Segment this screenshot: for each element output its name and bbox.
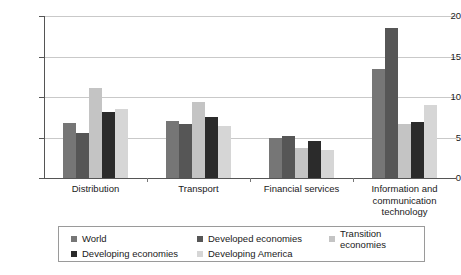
x-axis-category-label: Financial services xyxy=(250,183,353,195)
y-tick-mark xyxy=(39,138,44,139)
legend-row: WorldDeveloped economiesTransition econo… xyxy=(65,231,424,246)
legend-item[interactable]: World xyxy=(71,233,107,244)
bar xyxy=(192,102,205,178)
bar xyxy=(308,141,321,178)
bar-group xyxy=(63,16,128,178)
y-tick-mark xyxy=(39,16,44,17)
bar-group xyxy=(372,16,437,178)
y-tick-label: 0 xyxy=(435,173,461,183)
category-label-line: Transport xyxy=(147,183,250,195)
y-tick-mark xyxy=(39,178,44,179)
legend-label: Developing America xyxy=(208,248,293,259)
bar xyxy=(205,117,218,178)
x-axis-tick-mark xyxy=(250,178,251,182)
bar xyxy=(76,133,89,178)
y-tick-mark xyxy=(39,57,44,58)
bar xyxy=(269,138,282,179)
y-tick-label: 15 xyxy=(435,52,461,62)
y-tick-label: 10 xyxy=(435,92,461,102)
category-label-line: technology xyxy=(353,206,456,218)
bar xyxy=(411,122,424,178)
legend-row: Developing economiesDeveloping America xyxy=(65,246,424,261)
bar-group xyxy=(166,16,231,178)
y-tick-label: 5 xyxy=(435,133,461,143)
bar xyxy=(385,28,398,178)
x-axis-category-label: Information andcommunicationtechnology xyxy=(353,183,456,218)
legend-swatch-icon xyxy=(71,236,77,242)
bar xyxy=(424,105,437,178)
bar xyxy=(179,124,192,178)
bar-group xyxy=(269,16,334,178)
category-label-line: communication xyxy=(353,195,456,207)
legend-item[interactable]: Developing America xyxy=(197,248,293,259)
x-axis-tick-mark xyxy=(353,178,354,182)
y-axis-line xyxy=(44,16,45,179)
legend-label: Developed economies xyxy=(208,233,302,244)
x-axis-tick-mark xyxy=(147,178,148,182)
legend-label: Developing economies xyxy=(82,248,178,259)
legend-item[interactable]: Developed economies xyxy=(197,233,302,244)
legend-swatch-icon xyxy=(71,251,77,257)
legend-swatch-icon xyxy=(197,236,203,242)
chart-legend: WorldDeveloped economiesTransition econo… xyxy=(58,226,425,262)
y-tick-mark xyxy=(39,97,44,98)
bar xyxy=(295,148,308,178)
category-label-line: Distribution xyxy=(44,183,147,195)
legend-swatch-icon xyxy=(197,251,203,257)
bar xyxy=(63,123,76,178)
bar xyxy=(398,124,411,178)
bar xyxy=(166,121,179,179)
bar xyxy=(89,88,102,178)
category-label-line: Financial services xyxy=(250,183,353,195)
bar xyxy=(218,126,231,178)
chart-figure: 05101520 DistributionTransportFinancial … xyxy=(0,0,461,275)
bar xyxy=(321,150,334,178)
legend-swatch-icon xyxy=(329,236,335,242)
bar xyxy=(115,109,128,178)
category-label-line: Information and xyxy=(353,183,456,195)
x-axis-category-label: Transport xyxy=(147,183,250,195)
bar xyxy=(102,112,115,178)
legend-label: World xyxy=(82,233,107,244)
x-axis-category-label: Distribution xyxy=(44,183,147,195)
legend-item[interactable]: Developing economies xyxy=(71,248,178,259)
y-tick-label: 20 xyxy=(435,11,461,21)
bar xyxy=(282,136,295,178)
bar xyxy=(372,69,385,178)
